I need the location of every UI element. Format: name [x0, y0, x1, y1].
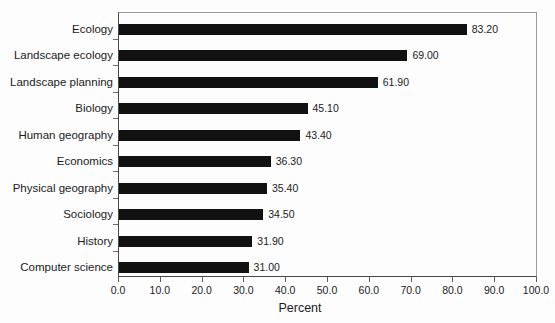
bar-value-label: 61.90 [383, 77, 409, 88]
y-axis-tick [113, 145, 118, 146]
x-axis-tick [452, 277, 453, 282]
bar-value-label: 83.20 [472, 24, 498, 35]
x-axis-tick-label: 60.0 [359, 284, 379, 296]
x-axis-tick [536, 277, 537, 282]
x-axis-tick-label: 30.0 [233, 284, 253, 296]
bar [119, 236, 252, 247]
bar-value-label: 35.40 [272, 183, 298, 194]
y-axis-tick [113, 118, 118, 119]
x-axis-tick-label: 40.0 [275, 284, 295, 296]
category-label: Computer science [0, 261, 113, 273]
y-axis-tick [113, 224, 118, 225]
x-axis-tick [411, 277, 412, 282]
bar-chart: EcologyLandscape ecologyLandscape planni… [0, 0, 555, 323]
x-axis-tick-label: 90.0 [484, 284, 504, 296]
x-axis-tick [202, 277, 203, 282]
y-axis-tick [113, 65, 118, 66]
x-axis-tick-label: 20.0 [191, 284, 211, 296]
category-axis-labels: EcologyLandscape ecologyLandscape planni… [0, 12, 113, 277]
x-axis-tick [160, 277, 161, 282]
category-label: History [0, 235, 113, 247]
x-axis-tick [285, 277, 286, 282]
x-axis-tick-label: 10.0 [150, 284, 170, 296]
y-axis-tick [113, 251, 118, 252]
x-axis-tick-label: 100.0 [523, 284, 549, 296]
category-label: Human geography [0, 129, 113, 141]
x-axis-tick [369, 277, 370, 282]
y-axis-tick [113, 171, 118, 172]
bar [119, 130, 300, 141]
category-label: Economics [0, 155, 113, 167]
x-axis-tick [118, 277, 119, 282]
x-axis-tick [243, 277, 244, 282]
bar-value-label: 69.00 [412, 50, 438, 61]
category-label: Landscape planning [0, 76, 113, 88]
bar-value-label: 45.10 [313, 103, 339, 114]
bar [119, 50, 407, 61]
y-axis-tick [113, 39, 118, 40]
bar [119, 24, 467, 35]
category-label: Sociology [0, 208, 113, 220]
bar [119, 77, 378, 88]
bar-value-label: 31.00 [254, 262, 280, 273]
bar-value-label: 34.50 [268, 209, 294, 220]
bar [119, 156, 271, 167]
bars-layer: 83.2069.0061.9045.1043.4036.3035.4034.50… [119, 12, 537, 277]
x-axis-tick-label: 50.0 [317, 284, 337, 296]
bar [119, 262, 249, 273]
value-axis: Percent 0.010.020.030.040.050.060.070.08… [118, 277, 537, 323]
x-axis-title: Percent [278, 301, 321, 315]
bar [119, 103, 308, 114]
category-label: Ecology [0, 23, 113, 35]
bar [119, 183, 267, 194]
x-axis-tick [327, 277, 328, 282]
category-label: Biology [0, 102, 113, 114]
bar-value-label: 36.30 [276, 156, 302, 167]
bar-value-label: 31.90 [257, 236, 283, 247]
x-axis-tick-label: 80.0 [442, 284, 462, 296]
bar-value-label: 43.40 [305, 130, 331, 141]
category-label: Landscape ecology [0, 49, 113, 61]
category-label: Physical geography [0, 182, 113, 194]
bar [119, 209, 263, 220]
x-axis-tick-label: 70.0 [400, 284, 420, 296]
y-axis-tick [113, 198, 118, 199]
x-axis-tick-label: 0.0 [111, 284, 126, 296]
x-axis-tick [494, 277, 495, 282]
y-axis-tick [113, 92, 118, 93]
